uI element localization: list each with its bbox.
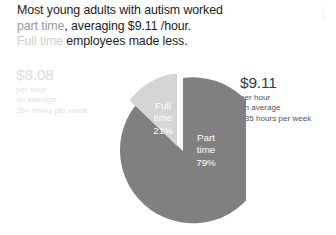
stat-block-part-time: $9.11 per hour on average <35 hours per …	[240, 74, 311, 124]
stat-right-sub-1: per hour	[240, 93, 311, 103]
stat-left-sub-1: per hour	[16, 85, 87, 95]
stat-right-amount: $9.11	[240, 74, 311, 91]
pie-chart: Full time 21% Part time 79%	[118, 74, 246, 224]
stat-left-sub-3: 35+ hours per week	[16, 106, 87, 116]
headline-line-2-text: , averaging $9.11 /hour.	[64, 19, 191, 33]
pie-label-full-time-name-2: time	[154, 112, 173, 123]
stat-right-sub-2: on average	[240, 103, 311, 113]
pie-label-full-time: Full time 21%	[141, 100, 185, 137]
headline-line-1: Most young adults with autism worked	[17, 3, 327, 19]
stat-block-full-time: $8.08 per hour on average 35+ hours per …	[16, 66, 87, 116]
pie-label-full-time-name-1: Full	[155, 100, 171, 111]
headline-text: Most young adults with autism worked par…	[17, 3, 327, 50]
pie-label-part-time-name-2: time	[197, 144, 216, 155]
headline-keyword-part-time: part time	[17, 19, 64, 33]
stat-left-amount: $8.08	[16, 66, 87, 83]
headline-line-3-text: employees made less.	[63, 34, 188, 48]
pie-label-full-time-value: 21%	[153, 125, 173, 136]
scan-artifact-mark	[323, 7, 324, 20]
headline-line-1-text: Most young adults with autism worked	[17, 3, 223, 17]
pie-label-part-time-name-1: Part	[197, 132, 215, 143]
pie-label-part-time-value: 79%	[196, 157, 216, 168]
headline-line-3: Full time employees made less.	[17, 34, 327, 50]
stat-right-sub-3: <35 hours per week	[240, 114, 311, 124]
pie-label-part-time: Part time 79%	[184, 132, 228, 169]
headline-keyword-full-time: Full time	[17, 34, 63, 48]
headline-line-2: part time, averaging $9.11 /hour.	[17, 19, 327, 35]
stat-left-sub-2: on average	[16, 95, 87, 105]
